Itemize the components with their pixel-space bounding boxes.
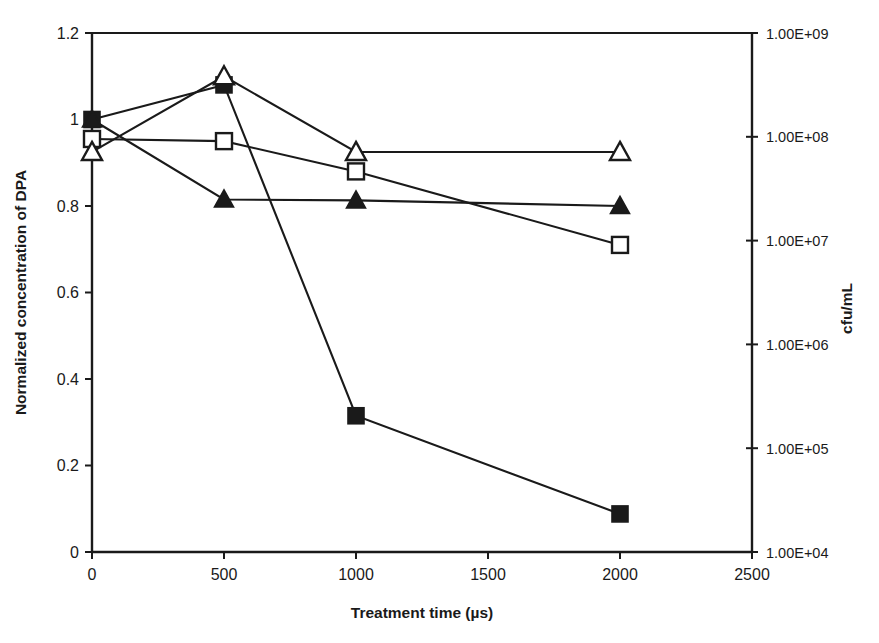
y-tick-label: 1 — [70, 111, 79, 128]
series-filled-triangle — [83, 110, 630, 214]
x-tick-label: 1500 — [470, 566, 506, 583]
marker-open-square — [348, 163, 364, 179]
marker-filled-square — [612, 506, 628, 522]
y-tick-label: 1.2 — [57, 25, 79, 42]
y2-axis-title: cfu/mL — [838, 283, 855, 334]
marker-open-square — [612, 237, 628, 253]
y-tick-label: 0.6 — [57, 284, 79, 301]
y-tick-label: 0.4 — [57, 371, 79, 388]
marker-open-square — [216, 133, 232, 149]
plot-frame — [92, 33, 752, 552]
x-tick-label: 0 — [88, 566, 97, 583]
y-tick-label: 0.8 — [57, 198, 79, 215]
chart-canvas: 00.20.40.60.811.2Normalized concentratio… — [0, 0, 879, 643]
y2-axis: 1.00E+041.00E+051.00E+061.00E+071.00E+08… — [746, 26, 829, 561]
x-axis-title: Treatment time (µs) — [351, 604, 493, 621]
y2-tick-label: 1.00E+09 — [766, 26, 829, 42]
y-tick-label: 0 — [70, 544, 79, 561]
series-open-triangle — [82, 66, 630, 160]
marker-open-triangle — [214, 66, 234, 84]
y2-tick-label: 1.00E+08 — [766, 129, 829, 145]
x-tick-label: 2500 — [734, 566, 770, 583]
y2-tick-label: 1.00E+05 — [766, 441, 829, 457]
y-axis-title: Normalized concentration of DPA — [12, 170, 29, 415]
y-axis: 00.20.40.60.811.2 — [57, 25, 92, 561]
x-tick-label: 1000 — [338, 566, 374, 583]
y2-tick-label: 1.00E+04 — [766, 545, 829, 561]
x-tick-label: 500 — [211, 566, 238, 583]
chart-figure: 00.20.40.60.811.2Normalized concentratio… — [0, 0, 879, 643]
marker-filled-square — [348, 408, 364, 424]
y2-tick-label: 1.00E+06 — [766, 337, 829, 353]
x-axis: 05001000150020002500 — [88, 552, 770, 583]
x-tick-label: 2000 — [602, 566, 638, 583]
y-tick-label: 0.2 — [57, 457, 79, 474]
y2-tick-label: 1.00E+07 — [766, 233, 829, 249]
